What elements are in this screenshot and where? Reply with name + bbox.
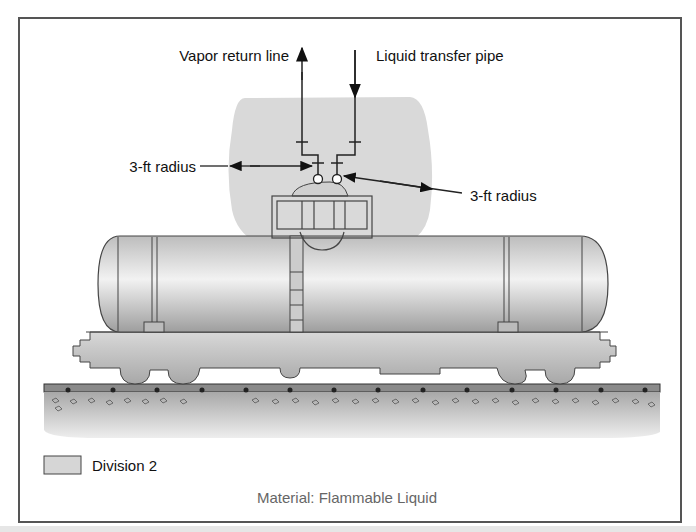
division-2-zone-shape — [229, 97, 433, 250]
caption: Material: Flammable Liquid — [257, 489, 437, 506]
rail — [44, 384, 660, 392]
ballast — [44, 392, 660, 438]
label-liquid-transfer-pipe: Liquid transfer pipe — [376, 47, 504, 64]
tank-car-diagram: Vapor return line Liquid transfer pipe 3… — [0, 0, 696, 532]
legend-label: Division 2 — [92, 457, 157, 474]
label-vapor-return-line: Vapor return line — [179, 47, 289, 64]
label-radius-left: 3-ft radius — [129, 158, 196, 175]
tank-saddle-right — [498, 322, 518, 332]
tank-saddle-left — [144, 322, 164, 332]
label-radius-right: 3-ft radius — [470, 187, 537, 204]
undercarriage — [73, 332, 616, 384]
tank-body — [98, 236, 608, 332]
legend-swatch — [44, 456, 81, 474]
ladder — [290, 236, 303, 332]
